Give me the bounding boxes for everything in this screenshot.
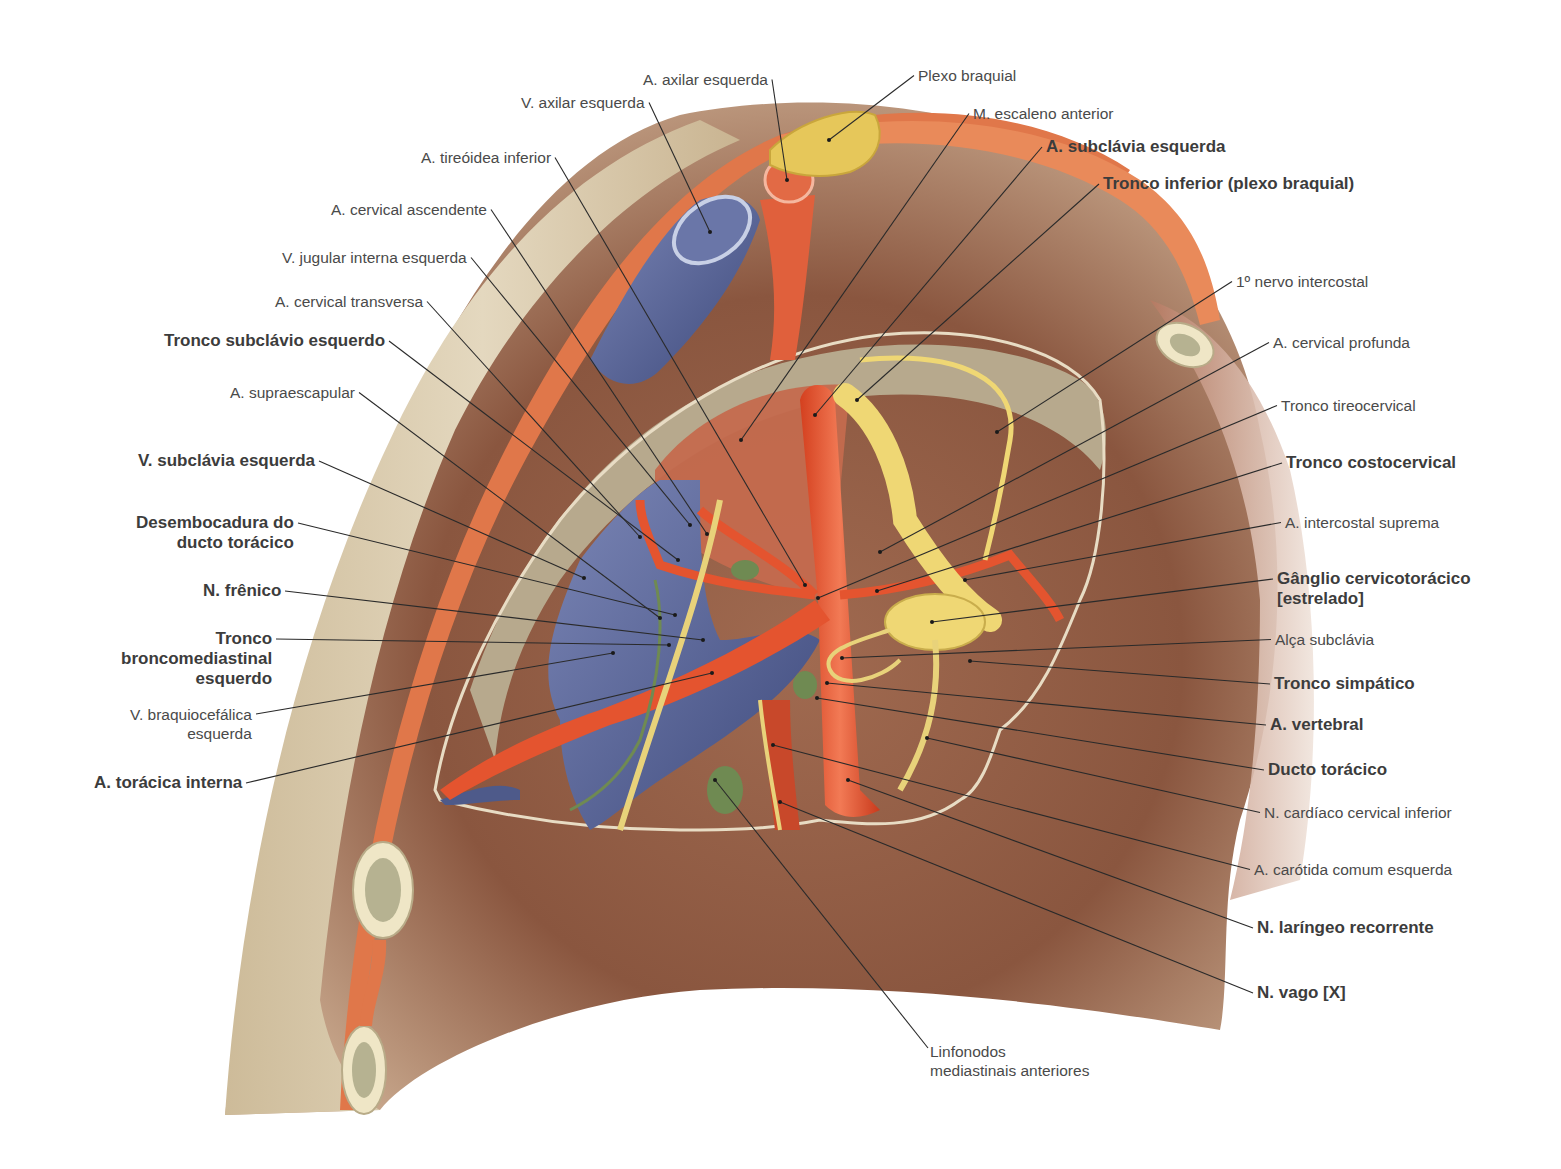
label-a-cervical-ascendente: A. cervical ascendente	[331, 200, 487, 219]
label-line: A. axilar esquerda	[643, 70, 768, 89]
label-line: V. subclávia esquerda	[138, 451, 315, 471]
label-plexo-braquial: Plexo braquial	[918, 66, 1016, 85]
label-line: Tronco simpático	[1274, 674, 1415, 694]
label-line: A. supraescapular	[230, 383, 355, 402]
label-line: Plexo braquial	[918, 66, 1016, 85]
label-line: Ducto torácico	[1268, 760, 1387, 780]
label-line: mediastinais anteriores	[930, 1061, 1089, 1080]
label-line: A. subclávia esquerda	[1046, 137, 1226, 157]
label-tronco-subclavio-esquerdo: Tronco subclávio esquerdo	[164, 331, 385, 351]
label-line: A. cervical ascendente	[331, 200, 487, 219]
label-line: A. tireóidea inferior	[421, 148, 551, 167]
label-line: Tronco costocervical	[1286, 453, 1456, 473]
label-v-braquiocefalica-esquerda: V. braquiocefálicaesquerda	[130, 705, 252, 743]
label-a-axilar-esquerda: A. axilar esquerda	[643, 70, 768, 89]
label-layer: A. axilar esquerdaV. axilar esquerdaA. t…	[0, 0, 1561, 1169]
label-line: N. cardíaco cervical inferior	[1264, 803, 1452, 822]
label-line: Tronco	[121, 629, 272, 649]
label-tronco-tireocervical: Tronco tireocervical	[1281, 396, 1416, 415]
label-a-vertebral: A. vertebral	[1270, 715, 1364, 735]
label-line: Linfonodos	[930, 1042, 1089, 1061]
label-tronco-simpatico: Tronco simpático	[1274, 674, 1415, 694]
label-line: A. vertebral	[1270, 715, 1364, 735]
label-line: broncomediastinal	[121, 649, 272, 669]
label-line: V. jugular interna esquerda	[282, 248, 467, 267]
label-line: V. axilar esquerda	[521, 93, 645, 112]
label-line: Tronco inferior (plexo braquial)	[1103, 174, 1354, 194]
label-primeiro-nervo-intercostal: 1º nervo intercostal	[1236, 272, 1368, 291]
label-line: Desembocadura do	[136, 513, 294, 533]
label-line: V. braquiocefálica	[130, 705, 252, 724]
label-a-cervical-transversa: A. cervical transversa	[275, 292, 423, 311]
label-line: M. escaleno anterior	[973, 104, 1113, 123]
label-line: N. frênico	[203, 581, 281, 601]
label-n-vago: N. vago [X]	[1257, 983, 1346, 1003]
label-m-escaleno-anterior: M. escaleno anterior	[973, 104, 1113, 123]
label-line: N. laríngeo recorrente	[1257, 918, 1434, 938]
label-v-subclavia-esquerda: V. subclávia esquerda	[138, 451, 315, 471]
label-line: A. cervical transversa	[275, 292, 423, 311]
label-alca-subclavia: Alça subclávia	[1275, 630, 1374, 649]
label-n-cardiaco-cervical-inferior: N. cardíaco cervical inferior	[1264, 803, 1452, 822]
label-line: ducto torácico	[136, 533, 294, 553]
label-tronco-costocervical: Tronco costocervical	[1286, 453, 1456, 473]
label-line: Alça subclávia	[1275, 630, 1374, 649]
label-a-supraescapular: A. supraescapular	[230, 383, 355, 402]
label-ducto-toracico: Ducto torácico	[1268, 760, 1387, 780]
label-line: A. carótida comum esquerda	[1254, 860, 1452, 879]
label-v-jugular-interna-esquerda: V. jugular interna esquerda	[282, 248, 467, 267]
label-line: A. cervical profunda	[1273, 333, 1410, 352]
label-linfonodos-mediastinais-anteriores: Linfonodosmediastinais anteriores	[930, 1042, 1089, 1080]
label-ganglio-cervicotoracico: Gânglio cervicotorácico[estrelado]	[1277, 569, 1471, 609]
label-desembocadura-ducto-toracico: Desembocadura doducto torácico	[136, 513, 294, 553]
label-a-intercostal-suprema: A. intercostal suprema	[1285, 513, 1439, 532]
label-line: [estrelado]	[1277, 589, 1471, 609]
label-a-subclavia-esquerda: A. subclávia esquerda	[1046, 137, 1226, 157]
label-v-axilar-esquerda: V. axilar esquerda	[521, 93, 645, 112]
label-line: A. torácica interna	[94, 773, 242, 793]
label-line: Tronco subclávio esquerdo	[164, 331, 385, 351]
label-n-laringeo-recorrente: N. laríngeo recorrente	[1257, 918, 1434, 938]
label-n-frenico: N. frênico	[203, 581, 281, 601]
label-line: Gânglio cervicotorácico	[1277, 569, 1471, 589]
label-line: A. intercostal suprema	[1285, 513, 1439, 532]
label-line: Tronco tireocervical	[1281, 396, 1416, 415]
label-line: 1º nervo intercostal	[1236, 272, 1368, 291]
label-line: esquerda	[130, 724, 252, 743]
label-line: esquerdo	[121, 669, 272, 689]
label-a-carotida-comum-esquerda: A. carótida comum esquerda	[1254, 860, 1452, 879]
label-tronco-inferior-plexo-braquial: Tronco inferior (plexo braquial)	[1103, 174, 1354, 194]
label-tronco-broncomediastinal-esquerdo: Troncobroncomediastinalesquerdo	[121, 629, 272, 689]
label-a-tireoidea-inferior: A. tireóidea inferior	[421, 148, 551, 167]
label-line: N. vago [X]	[1257, 983, 1346, 1003]
label-a-toracica-interna: A. torácica interna	[94, 773, 242, 793]
label-a-cervical-profunda: A. cervical profunda	[1273, 333, 1410, 352]
